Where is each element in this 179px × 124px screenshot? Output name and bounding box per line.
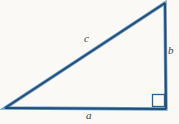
diagram-canvas: c b a — [0, 0, 179, 124]
triangle-side-c-hypotenuse — [5, 3, 165, 108]
label-hypotenuse-c: c — [84, 33, 89, 44]
triangle-side-b — [165, 3, 166, 109]
triangle-outline — [5, 3, 166, 109]
right-triangle-figure — [0, 0, 179, 124]
right-angle-marker-icon — [153, 95, 165, 107]
label-vertical-leg-b: b — [168, 45, 174, 56]
label-horizontal-leg-a: a — [86, 110, 92, 121]
